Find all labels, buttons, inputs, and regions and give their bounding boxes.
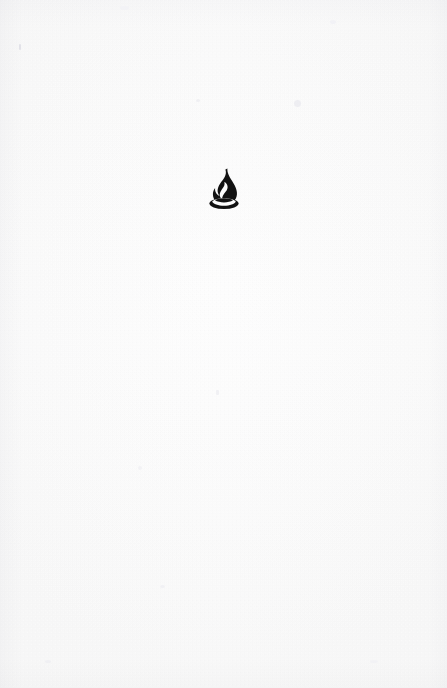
paper-speck [330, 20, 336, 24]
paper-speck [196, 99, 200, 102]
scanned-page [0, 0, 447, 688]
paper-speck [45, 660, 51, 663]
paper-speck [160, 585, 165, 588]
paper-speck [216, 390, 219, 395]
paper-speck [370, 660, 378, 663]
paper-grain-texture [0, 0, 447, 688]
paper-speck [120, 6, 129, 10]
paper-speck [138, 466, 142, 470]
paper-speck [19, 44, 21, 50]
flame-brazier-icon [201, 168, 247, 212]
paper-speck [294, 100, 301, 107]
